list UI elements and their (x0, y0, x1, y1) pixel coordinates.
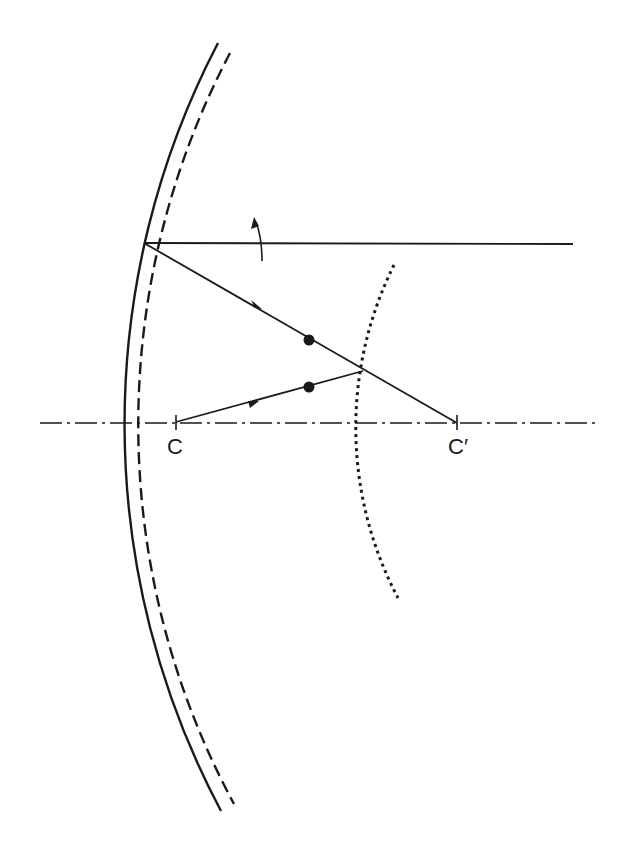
ray-from-c (176, 371, 363, 422)
optics-diagram: C C′ (0, 0, 624, 850)
label-c-prime: C′ (448, 434, 468, 459)
rotation-arrow-icon (256, 222, 262, 261)
arrowhead-icon (248, 401, 259, 408)
lower-point (304, 382, 315, 393)
reflected-ray (144, 243, 457, 423)
dashed-surface (138, 53, 234, 804)
incident-ray (144, 243, 573, 244)
dotted-surface (356, 265, 398, 598)
upper-point (304, 335, 315, 346)
label-c: C (167, 434, 183, 459)
